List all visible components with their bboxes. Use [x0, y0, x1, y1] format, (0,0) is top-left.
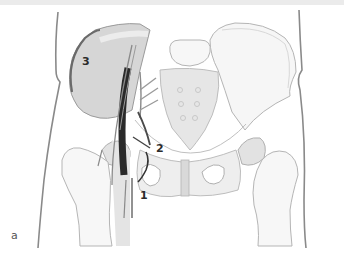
lumbar-plexus-branch-3: [140, 88, 158, 100]
panel-letter: a: [11, 230, 18, 241]
left-femur: [62, 148, 112, 246]
pelvis-illustration: [0, 0, 344, 256]
label-2: 2: [156, 143, 164, 154]
label-3: 3: [82, 56, 90, 67]
l5-vertebra: [170, 40, 211, 66]
obturator-nerve: [138, 112, 150, 145]
left-body-contour: [38, 12, 60, 248]
left-obturator-foramen: [142, 164, 161, 186]
label-1: 1: [140, 190, 148, 201]
right-body-contour: [298, 10, 306, 248]
right-femur: [253, 151, 298, 246]
lumbar-plexus-branch-4: [140, 100, 158, 110]
right-iliac-wing: [210, 23, 296, 130]
lumbar-plexus-branch-2: [140, 78, 156, 90]
lumbar-plexus-branch-1: [140, 72, 141, 118]
pubic-symphysis: [181, 160, 189, 196]
sacrum: [160, 68, 219, 150]
